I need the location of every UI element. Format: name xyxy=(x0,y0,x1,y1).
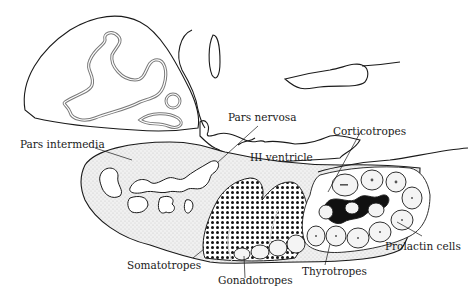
hypothalamus-outlines xyxy=(179,30,400,163)
label-pars-nervosa: Pars nervosa xyxy=(228,112,297,123)
label-prolactin-cells: Prolactin cells xyxy=(385,241,461,252)
label-corticotropes: Corticotropes xyxy=(333,126,406,137)
label-pars-intermedia: Pars intermedia xyxy=(20,139,105,150)
pars-nervosa-lobe xyxy=(24,16,198,131)
label-iii-ventricle: III ventricle xyxy=(250,152,313,163)
label-somatotropes: Somatotropes xyxy=(127,260,201,271)
label-gonadotropes: Gonadotropes xyxy=(218,275,293,286)
label-thyrotropes: Thyrotropes xyxy=(302,266,367,277)
pituitary-diagram: Pars nervosa Pars intermedia III ventric… xyxy=(0,0,470,296)
